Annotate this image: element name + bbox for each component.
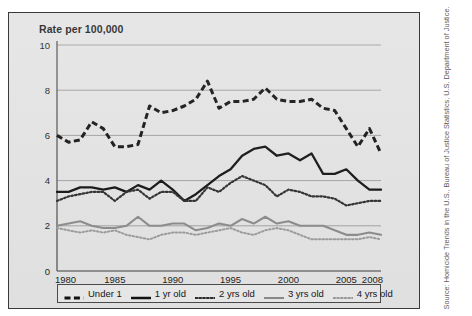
legend-swatch-icon (131, 289, 151, 299)
legend-swatch-icon (195, 289, 215, 299)
y-tick-label-0: 0 (45, 266, 50, 277)
chart-figure: Rate per 100,000 0246810 198019851990199… (0, 0, 472, 316)
legend-swatch-icon (64, 289, 84, 299)
legend-swatch-icon (333, 289, 353, 299)
series-line-under-1 (57, 81, 381, 153)
data-series-group (57, 81, 381, 239)
legend-swatch-icon (264, 289, 284, 299)
y-tick-label-6: 6 (45, 130, 50, 141)
chart-panel: Rate per 100,000 0246810 198019851990199… (8, 12, 420, 309)
legend-item-2-yrs-old[interactable]: 2 yrs old (195, 288, 255, 299)
y-tick-label-8: 8 (45, 85, 50, 96)
y-tick-label-4: 4 (45, 175, 50, 186)
legend-item-under-1[interactable]: Under 1 (64, 288, 122, 299)
y-tick-label-2: 2 (45, 220, 50, 231)
legend-label: 4 yrs old (357, 288, 393, 299)
y-axis-tick-labels: 0246810 (39, 40, 50, 277)
chart-legend: Under 11 yr old2 yrs old3 yrs old4 yrs o… (57, 284, 381, 303)
legend-item-3-yrs-old[interactable]: 3 yrs old (264, 288, 324, 299)
legend-label: Under 1 (88, 288, 122, 299)
legend-label: 3 yrs old (288, 288, 324, 299)
legend-item-1-yr-old[interactable]: 1 yr old (131, 288, 186, 299)
plot-area: 0246810 1980198519901995200020052008 (9, 13, 421, 310)
gridlines (57, 45, 381, 271)
legend-label: 2 yrs old (219, 288, 255, 299)
y-tick-label-10: 10 (39, 40, 50, 51)
source-note-wrap: Source: Homicide Trends in the U.S., Bur… (420, 0, 472, 316)
source-note: Source: Homicide Trends in the U.S., Bur… (442, 7, 451, 310)
legend-item-4-yrs-old[interactable]: 4 yrs old (333, 288, 393, 299)
legend-label: 1 yr old (155, 288, 186, 299)
